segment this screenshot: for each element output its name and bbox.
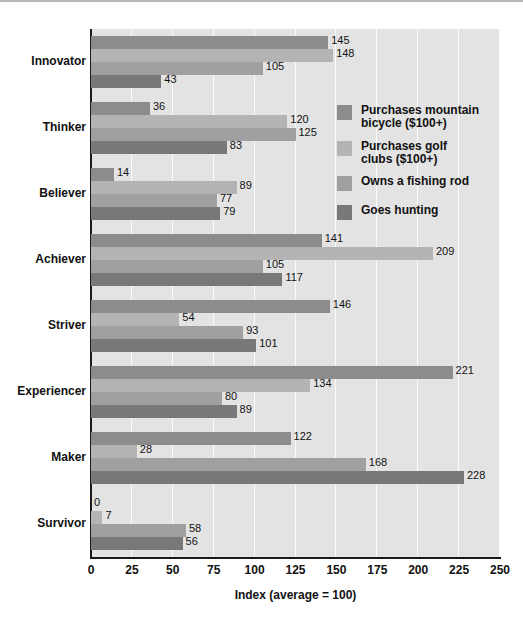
bar[interactable] [91,181,237,194]
legend-item[interactable]: Purchases golf clubs ($100+) [337,140,447,166]
bar[interactable] [91,141,227,154]
bar[interactable] [91,75,161,88]
bar-group: 14514810543 [91,29,500,95]
bar-value-label: 7 [105,509,111,522]
bar[interactable] [91,207,220,220]
bar[interactable] [91,128,296,141]
legend-swatch [337,205,352,220]
bar-group: 12228168228 [91,425,500,491]
bar-value-label: 122 [294,430,312,443]
legend-swatch [337,105,352,120]
bar-value-label: 77 [220,192,232,205]
x-axis-line [90,557,501,559]
bar-value-label: 145 [331,34,349,47]
legend-item[interactable]: Purchases mountain bicycle ($100+) [337,104,479,130]
bar[interactable] [91,168,114,181]
x-axis-title: Index (average = 100) [91,588,500,602]
x-tick-label: 75 [207,563,220,577]
legend-swatch [337,176,352,191]
bar-value-label: 120 [290,113,308,126]
x-tick-label: 175 [367,563,387,577]
legend-swatch [337,141,352,156]
x-tick-label: 250 [490,563,510,577]
bar[interactable] [91,300,330,313]
bar[interactable] [91,260,263,273]
x-tick-label: 25 [125,563,138,577]
category-label-maker: Maker [0,450,86,464]
category-label-achiever: Achiever [0,252,86,266]
bar[interactable] [91,366,453,379]
category-label-innovator: Innovator [0,54,86,68]
bar-value-label: 83 [230,139,242,152]
bar-value-label: 79 [223,205,235,218]
bar-row: 168 [91,458,500,471]
legend-label: Owns a fishing rod [361,175,469,188]
bar[interactable] [91,326,243,339]
bar[interactable] [91,537,183,550]
bar-value-label: 56 [186,535,198,548]
bar-row: 89 [91,405,500,418]
bar-group: 2211348089 [91,359,500,425]
bar-row: 0 [91,498,500,511]
bar[interactable] [91,102,150,115]
bar-group: 14897779 [91,161,500,227]
bar[interactable] [91,194,217,207]
bar[interactable] [91,36,328,49]
bar-group: 075856 [91,491,500,557]
bar-row: 221 [91,366,500,379]
bar-row: 77 [91,194,500,207]
bar[interactable] [91,313,179,326]
legend-item[interactable]: Goes hunting [337,204,438,220]
x-tick-label: 225 [449,563,469,577]
bar-value-label: 89 [240,179,252,192]
bar-value-label: 168 [369,456,387,469]
bar-row: 56 [91,537,500,550]
bar-row: 146 [91,300,500,313]
bar[interactable] [91,392,222,405]
bar-value-label: 0 [94,496,100,509]
bar[interactable] [91,273,282,286]
bar-value-label: 28 [140,443,152,456]
bar-value-label: 43 [164,73,176,86]
x-tick-label: 200 [408,563,428,577]
bar[interactable] [91,115,287,128]
bar[interactable] [91,62,263,75]
x-tick-label: 0 [88,563,95,577]
bar[interactable] [91,524,186,537]
category-label-experiencer: Experiencer [0,384,86,398]
category-label-thinker: Thinker [0,120,86,134]
bar[interactable] [91,432,291,445]
bar-row: 148 [91,49,500,62]
bar-value-label: 58 [189,522,201,535]
bar[interactable] [91,49,333,62]
legend-item[interactable]: Owns a fishing rod [337,175,469,191]
bar-row: 122 [91,432,500,445]
bar-value-label: 93 [246,324,258,337]
bar-row: 80 [91,392,500,405]
bar-value-label: 89 [240,403,252,416]
bar[interactable] [91,458,366,471]
bar-value-label: 54 [182,311,194,324]
bar-row: 101 [91,339,500,352]
bar-row: 228 [91,471,500,484]
bar[interactable] [91,339,256,352]
bar-row: 105 [91,62,500,75]
bar-value-label: 36 [153,100,165,113]
bar[interactable] [91,379,310,392]
x-tick-label: 100 [245,563,265,577]
bar[interactable] [91,471,464,484]
legend-label: Goes hunting [361,204,438,217]
bar-row: 134 [91,379,500,392]
bar[interactable] [91,247,433,260]
bar-value-label: 148 [336,47,354,60]
bar-row: 209 [91,247,500,260]
bar[interactable] [91,405,237,418]
bar-row: 93 [91,326,500,339]
bar[interactable] [91,234,322,247]
bar-value-label: 125 [299,126,317,139]
bar-value-label: 221 [456,364,474,377]
legend-label: Purchases mountain bicycle ($100+) [361,104,479,130]
bar[interactable] [91,511,102,524]
bar-group: 1465493101 [91,293,500,359]
bar[interactable] [91,445,137,458]
